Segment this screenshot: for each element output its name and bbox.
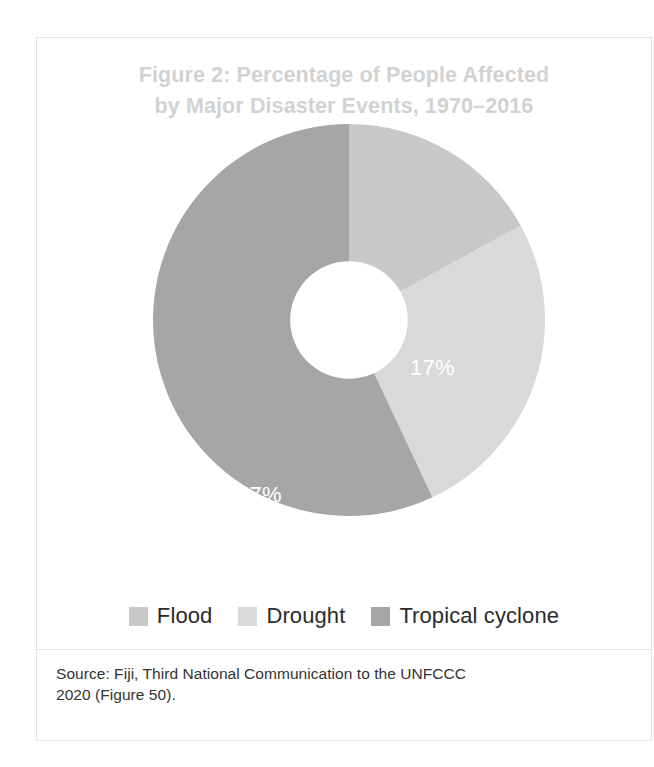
legend-item-drought[interactable]: Drought xyxy=(238,603,345,629)
source-note-line-2: 2020 (Figure 50). xyxy=(56,684,634,705)
figure-title-line-2: by Major Disaster Events, 1970–2016 xyxy=(67,91,621,122)
figure-title-line-1: Figure 2: Percentage of People Affected xyxy=(67,60,621,91)
legend-item-flood[interactable]: Flood xyxy=(129,603,213,629)
donut-chart xyxy=(153,124,545,516)
legend-item-tropical-cyclone[interactable]: Tropical cyclone xyxy=(371,603,559,629)
source-divider xyxy=(37,649,651,650)
donut-hole xyxy=(290,261,408,379)
figure-card: Figure 2: Percentage of People Affected … xyxy=(36,37,652,741)
legend-label-tropical-cyclone: Tropical cyclone xyxy=(399,603,559,629)
legend-swatch-flood xyxy=(129,607,148,626)
legend-swatch-tropical-cyclone xyxy=(371,607,390,626)
figure-title: Figure 2: Percentage of People Affected … xyxy=(67,60,621,122)
chart-legend: Flood Drought Tropical cyclone xyxy=(37,603,651,629)
source-note-line-1: Source: Fiji, Third National Communicati… xyxy=(56,663,634,684)
donut-chart-area: 17% 26% 57% xyxy=(37,124,651,530)
source-note: Source: Fiji, Third National Communicati… xyxy=(56,663,634,705)
legend-label-drought: Drought xyxy=(266,603,345,629)
legend-label-flood: Flood xyxy=(157,603,213,629)
slice-label-flood: 57% xyxy=(237,482,282,508)
legend-swatch-drought xyxy=(238,607,257,626)
slice-label-drought: 17% xyxy=(410,355,455,381)
slice-label-tropical-cyclone: 26% xyxy=(455,501,500,527)
